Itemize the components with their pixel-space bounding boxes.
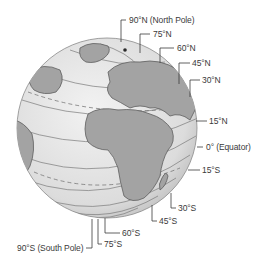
north-pole-dot xyxy=(123,48,127,52)
label-60n: 60°N xyxy=(177,43,196,53)
label-90n-north-pole: 90°N (North Pole) xyxy=(129,15,194,25)
label-45s: 45°S xyxy=(159,216,177,226)
north-america xyxy=(28,66,62,93)
label-30s: 30°S xyxy=(178,203,196,213)
label-75n: 75°N xyxy=(153,29,172,39)
label-equator: 0° (Equator) xyxy=(206,142,251,152)
label-30n: 30°N xyxy=(202,75,221,85)
label-90s-south-pole: 90°S (South Pole) xyxy=(17,243,83,253)
label-15n: 15°N xyxy=(209,116,228,126)
label-15s: 15°S xyxy=(202,165,220,175)
label-45n: 45°N xyxy=(192,58,211,68)
label-60s: 60°S xyxy=(122,228,140,238)
latitude-diagram: 90°N (North Pole) 75°N 60°N 45°N 30°N 15… xyxy=(0,0,263,272)
label-75s: 75°S xyxy=(104,239,122,249)
